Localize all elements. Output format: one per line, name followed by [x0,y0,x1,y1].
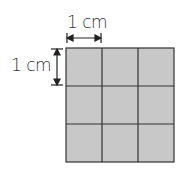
horizontal-dimension-arrow-icon [67,33,101,43]
square-grid [66,48,174,162]
grid-diagram [0,0,185,172]
vertical-dimension-arrow-icon [51,49,63,85]
